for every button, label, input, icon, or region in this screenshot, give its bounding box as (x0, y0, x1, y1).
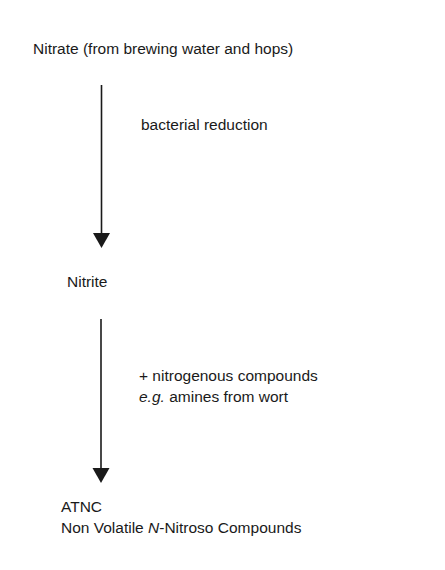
amines-text: amines from wort (165, 388, 288, 405)
atnc-desc-post: -Nitroso Compounds (159, 519, 301, 536)
edge-label-nitrogenous-compounds: + nitrogenous compounds (139, 366, 318, 385)
atnc-desc-n-italic: N (148, 519, 159, 536)
node-nitrate: Nitrate (from brewing water and hops) (33, 39, 293, 58)
arrow-nitrite-to-atnc (93, 319, 110, 483)
node-atnc-description: Non Volatile N-Nitroso Compounds (61, 518, 301, 537)
node-atnc: ATNC (61, 497, 102, 516)
node-nitrite: Nitrite (67, 272, 107, 291)
edge-label-bacterial-reduction: bacterial reduction (141, 115, 268, 134)
edge-label-amines-from-wort: e.g. amines from wort (139, 387, 288, 406)
eg-italic: e.g. (139, 388, 165, 405)
atnc-desc-pre: Non Volatile (61, 519, 148, 536)
arrow-nitrate-to-nitrite (93, 85, 110, 248)
